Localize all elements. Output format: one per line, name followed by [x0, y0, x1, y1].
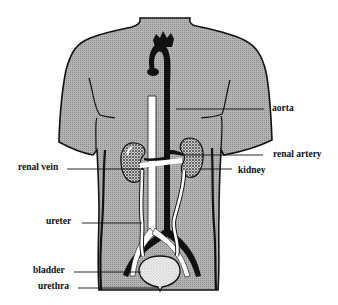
- label-renal-vein: renal vein: [18, 163, 58, 173]
- label-ureter: ureter: [46, 217, 71, 227]
- label-renal-artery: renal artery: [273, 150, 322, 160]
- label-kidney: kidney: [238, 166, 265, 176]
- label-aorta: aorta: [272, 104, 294, 114]
- urinary-system-diagram: aorta renal artery kidney renal vein ure…: [0, 0, 338, 305]
- label-bladder: bladder: [33, 266, 65, 276]
- label-urethra: urethra: [38, 282, 69, 292]
